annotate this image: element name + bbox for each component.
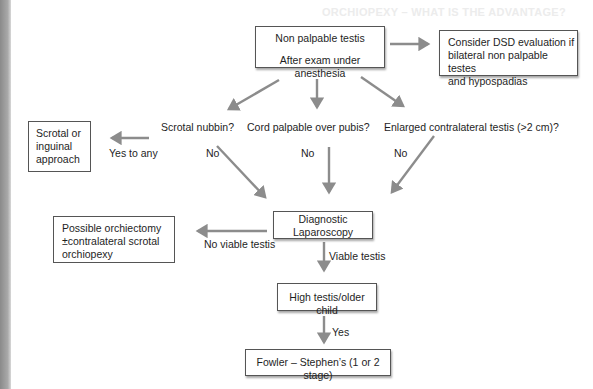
question-scrotal-nubbin: Scrotal nubbin?	[161, 121, 234, 134]
node-diagnostic-laparoscopy: Diagnostic Laparoscopy	[273, 211, 373, 239]
node-text-line: ±contralateral scrotal	[62, 235, 174, 248]
edge-label-yes-to-any: Yes to any	[109, 147, 158, 160]
node-text-line: After exam under anesthesia	[256, 54, 384, 80]
node-scrotal-inguinal-approach: Scrotal or inguinal approach	[28, 121, 91, 172]
node-text-line: Non palpable testis	[256, 32, 384, 45]
edge-label-yes: Yes	[332, 326, 349, 339]
node-dsd-evaluation: Consider DSD evaluation if bilateral non…	[439, 30, 578, 76]
question-enlarged-contralateral: Enlarged contralateral testis (>2 cm)?	[384, 121, 559, 134]
edge-label-viable-testis: Viable testis	[329, 250, 385, 263]
node-fowler-stephens: Fowler – Stephen’s (1 or 2 stage)	[245, 349, 391, 376]
node-text-line: Scrotal or	[36, 127, 90, 140]
edge-label-no-1: No	[206, 147, 219, 160]
node-text-line: High testis/older child	[278, 291, 376, 317]
node-text-line: Consider DSD evaluation if	[448, 36, 577, 49]
node-text-line: orchiopexy	[62, 248, 174, 261]
arrow-q3-to-laparoscopy	[392, 136, 434, 192]
node-high-testis-older-child: High testis/older child	[277, 283, 377, 311]
edge-label-no-2: No	[301, 147, 314, 160]
edge-label-no-3: No	[394, 147, 407, 160]
node-text-line: Possible orchiectomy	[62, 222, 174, 235]
node-text-line: inguinal	[36, 140, 90, 153]
node-text-line: Diagnostic	[274, 213, 372, 226]
node-non-palpable-testis: Non palpable testis After exam under ane…	[255, 26, 385, 68]
question-cord-palpable: Cord palpable over pubis?	[247, 121, 370, 134]
node-text-line: Laparoscopy	[274, 226, 372, 239]
node-text-line: Fowler – Stephen’s (1 or 2 stage)	[246, 356, 390, 382]
node-possible-orchiectomy: Possible orchiectomy ±contralateral scro…	[53, 216, 175, 263]
node-text-line: and hypospadias	[448, 75, 577, 88]
edge-label-no-viable-testis: No viable testis	[204, 238, 275, 251]
arrow-start-to-q1	[229, 80, 279, 109]
arrow-q1-to-laparoscopy	[217, 146, 265, 197]
node-text-line: bilateral non palpable testes	[448, 49, 577, 75]
node-text-line: approach	[36, 153, 90, 166]
arrow-start-to-q3	[361, 77, 403, 106]
